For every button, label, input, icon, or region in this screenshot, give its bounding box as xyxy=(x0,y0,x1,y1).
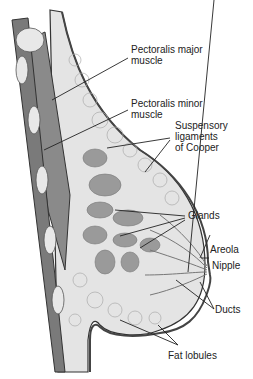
label-pectoralis-major: Pectoralis major muscle xyxy=(131,44,203,66)
label-suspensory-ligaments: Suspensory ligaments of Cooper xyxy=(175,120,228,153)
label-fat-lobules: Fat lobules xyxy=(168,350,217,361)
label-glands: Glands xyxy=(188,210,220,221)
label-nipple: Nipple xyxy=(212,260,240,271)
label-areola: Areola xyxy=(210,244,239,255)
label-ducts: Ducts xyxy=(215,304,241,315)
breast-anatomy-diagram xyxy=(0,0,253,379)
label-pectoralis-minor: Pectoralis minor muscle xyxy=(131,98,203,120)
